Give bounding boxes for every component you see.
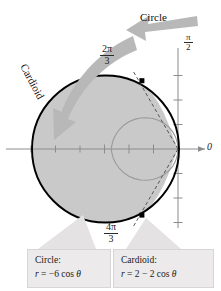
connector-cardioid: [126, 218, 181, 249]
angle-label-2pi-over-3: 2π 3: [100, 44, 114, 67]
circle-arrow-label: Circle: [140, 12, 167, 23]
polar-figure: 2π 3 4π 3 π 2 0 Circle Cardioid Circle: …: [0, 0, 221, 291]
angle-2pi3-denominator: 3: [100, 55, 114, 67]
callout-cardioid: Cardioid: r = 2 − 2 cos θ: [113, 249, 214, 288]
angle-2pi3-numerator: 2π: [100, 44, 114, 55]
pi-half-denominator: 2: [184, 42, 193, 52]
pi-half-numerator: π: [184, 33, 193, 42]
callout-cardioid-title: Cardioid:: [121, 254, 207, 268]
callout-cardioid-eq-rhs: = 2 − 2 cos: [127, 269, 169, 279]
callout-circle-eq-lhs: r: [35, 269, 39, 279]
intersection-point-upper: [139, 78, 144, 83]
vertical-axis-label: π 2: [184, 33, 193, 53]
callout-cardioid-eq-var: θ: [172, 269, 177, 279]
angle-4pi3-denominator: 3: [104, 233, 118, 245]
callout-cardioid-equation: r = 2 − 2 cos θ: [121, 268, 207, 282]
callout-circle: Circle: r = −6 cos θ: [27, 249, 111, 288]
callout-cardioid-eq-lhs: r: [121, 269, 125, 279]
angle-label-4pi-over-3: 4π 3: [104, 222, 118, 245]
polar-axis-label: 0: [207, 142, 212, 152]
callout-circle-eq-rhs: = −6 cos: [41, 269, 74, 279]
callout-circle-eq-var: θ: [76, 269, 81, 279]
angle-4pi3-numerator: 4π: [104, 222, 118, 233]
intersection-point-lower: [139, 213, 144, 218]
callout-circle-equation: r = −6 cos θ: [35, 268, 104, 282]
callout-circle-title: Circle:: [35, 254, 104, 268]
